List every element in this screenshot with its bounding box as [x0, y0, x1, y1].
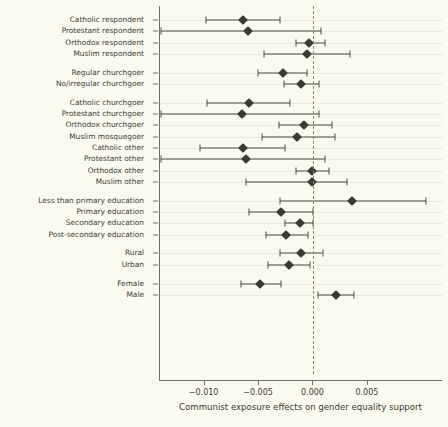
row-tick — [153, 42, 158, 43]
ci-cap-low — [278, 122, 279, 129]
row-label: Protestant other — [84, 155, 144, 163]
ci-cap-high — [308, 231, 309, 238]
ci-cap-low — [318, 291, 319, 298]
ci-cap-low — [280, 250, 281, 257]
ci-cap-high — [307, 69, 308, 76]
confidence-interval-bar — [161, 31, 322, 32]
row-tick — [153, 170, 158, 171]
ci-cap-low — [160, 111, 161, 118]
ci-cap-low — [205, 17, 206, 24]
zero-reference-line — [313, 6, 314, 374]
ci-cap-high — [347, 178, 348, 185]
ci-cap-low — [245, 178, 246, 185]
point-estimate-marker — [244, 98, 254, 108]
ci-cap-high — [426, 197, 427, 204]
row-label: Urban — [122, 261, 144, 269]
row-tick — [153, 253, 158, 254]
row-label: Male — [126, 291, 144, 299]
point-estimate-marker — [238, 15, 248, 25]
point-estimate-marker — [277, 207, 287, 217]
ci-cap-low — [279, 197, 280, 204]
row-label: Muslim other — [96, 178, 144, 186]
ci-cap-high — [322, 250, 323, 257]
ci-cap-low — [283, 81, 284, 88]
ci-cap-low — [261, 133, 262, 140]
point-estimate-marker — [302, 49, 312, 59]
ci-cap-low — [160, 28, 161, 35]
point-estimate-marker — [278, 68, 288, 78]
row-tick — [153, 102, 158, 103]
point-estimate-marker — [299, 120, 309, 130]
row-tick — [153, 84, 158, 85]
x-axis-tick-label: −0.010 — [189, 388, 219, 397]
row-label: Muslim respondent — [73, 50, 144, 58]
row-tick — [153, 181, 158, 182]
row-tick — [153, 264, 158, 265]
point-estimate-marker — [296, 248, 306, 258]
row-label: Orthodox other — [88, 167, 144, 175]
ci-cap-low — [257, 69, 258, 76]
ci-cap-high — [280, 17, 281, 24]
ci-cap-low — [296, 39, 297, 46]
gridline — [160, 20, 443, 21]
ci-cap-high — [325, 156, 326, 163]
row-tick — [153, 114, 158, 115]
row-label: Protestant churchgoer — [62, 110, 144, 118]
row-label: Orthodox churchgoer — [65, 121, 144, 129]
ci-cap-high — [321, 28, 322, 35]
gridline — [160, 284, 443, 285]
point-estimate-marker — [237, 109, 247, 119]
row-label: Catholic churchgoer — [70, 99, 144, 107]
ci-cap-high — [289, 99, 290, 106]
row-label: Less than primary education — [38, 197, 144, 205]
row-tick — [153, 31, 158, 32]
x-axis-label: Communist exposure effects on gender equ… — [159, 402, 442, 412]
row-tick — [153, 53, 158, 54]
x-axis-tick-label: 0.005 — [355, 388, 378, 397]
ci-cap-low — [285, 220, 286, 227]
ci-cap-high — [332, 122, 333, 129]
row-label: Orthodox respondent — [65, 39, 144, 47]
ci-cap-high — [325, 39, 326, 46]
x-axis-tick — [312, 381, 313, 385]
row-label: Female — [117, 280, 144, 288]
ci-cap-high — [319, 81, 320, 88]
row-label: Protestant respondent — [62, 27, 144, 35]
plot-panel — [159, 6, 442, 381]
row-tick — [153, 159, 158, 160]
ci-cap-high — [354, 291, 355, 298]
row-tick — [153, 294, 158, 295]
row-tick — [153, 20, 158, 21]
row-tick — [153, 72, 158, 73]
x-axis-tick — [258, 381, 259, 385]
ci-cap-low — [248, 209, 249, 216]
row-label: Post-secondary education — [49, 231, 144, 239]
point-estimate-marker — [296, 79, 306, 89]
point-estimate-marker — [331, 290, 341, 300]
ci-cap-low — [267, 261, 268, 268]
x-axis-tick-label: 0.000 — [301, 388, 324, 397]
row-label: Rural — [125, 249, 144, 257]
ci-cap-high — [329, 167, 330, 174]
point-estimate-marker — [282, 230, 292, 240]
point-estimate-marker — [238, 143, 248, 153]
row-label: Catholic other — [92, 144, 144, 152]
point-estimate-marker — [347, 196, 357, 206]
point-estimate-marker — [284, 260, 294, 270]
point-estimate-marker — [241, 154, 251, 164]
ci-cap-low — [296, 167, 297, 174]
ci-cap-high — [335, 133, 336, 140]
row-tick — [153, 125, 158, 126]
row-tick — [153, 212, 158, 213]
row-label: Catholic respondent — [70, 16, 144, 24]
ci-cap-high — [281, 280, 282, 287]
x-axis-tick — [204, 381, 205, 385]
row-label: Primary education — [76, 208, 144, 216]
point-estimate-marker — [255, 279, 265, 289]
ci-cap-low — [265, 231, 266, 238]
row-tick — [153, 223, 158, 224]
forest-plot-figure: Catholic respondentProtestant respondent… — [0, 0, 448, 427]
ci-cap-low — [206, 99, 207, 106]
row-tick — [153, 200, 158, 201]
x-axis-tick-label: −0.005 — [243, 388, 273, 397]
